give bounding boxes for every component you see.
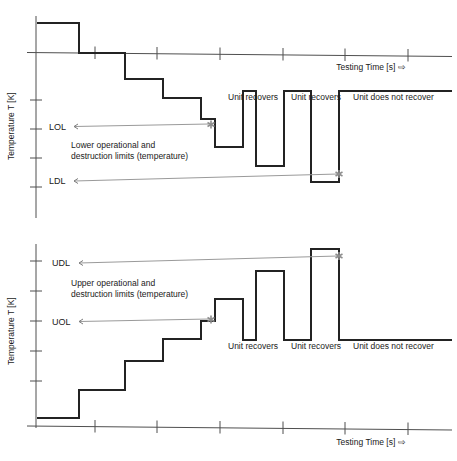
hot-note-line-2: destruction limits (temperature) — [71, 289, 188, 299]
hot-limit-label-udl: UDL — [52, 258, 70, 268]
hot-event-label-2: Unit recovers — [291, 341, 341, 351]
cold-step-stress-chart: Temperature T [K] Testing Time [s] ⇨ LOL… — [0, 0, 457, 230]
hot-event-label-1: Unit recovers — [228, 341, 278, 351]
cold-event-label-2: Unit recovers — [291, 92, 341, 102]
hot-profile-line — [37, 249, 452, 418]
cold-y-axis-title: Temperature T [K] — [6, 92, 16, 160]
hot-x-axis — [27, 426, 452, 430]
hot-limit-label-uol: UOL — [52, 317, 71, 327]
cold-lol-leader — [74, 124, 209, 129]
step-stress-figure: Temperature T [K] Testing Time [s] ⇨ LOL… — [0, 0, 457, 461]
cold-event-label-1: Unit recovers — [228, 92, 278, 102]
hot-uol-leader — [79, 319, 209, 324]
hot-step-stress-chart: Temperature T [K] Testing Time [s] ⇨ UDL… — [0, 230, 457, 461]
cold-x-axis-title: Testing Time [s] ⇨ — [336, 62, 405, 72]
hot-note-line-1: Upper operational and — [71, 278, 155, 288]
cold-limit-label-ldl: LDL — [49, 176, 66, 186]
hot-event-label-3: Unit does not recover — [353, 341, 434, 351]
hot-udl-leader — [79, 256, 338, 266]
cold-note-line-1: Lower operational and — [71, 140, 155, 150]
cold-ldl-leader — [74, 174, 338, 184]
hot-chart-svg: Temperature T [K] Testing Time [s] ⇨ UDL… — [0, 230, 457, 461]
cold-note-line-2: destruction limits (temperature) — [71, 151, 188, 161]
cold-event-label-3: Unit does not recover — [353, 92, 434, 102]
hot-y-axis-title: Temperature T [K] — [6, 297, 16, 365]
cold-limit-label-lol: LOL — [49, 122, 66, 132]
hot-x-axis-title: Testing Time [s] ⇨ — [336, 437, 405, 447]
cold-chart-svg: Temperature T [K] Testing Time [s] ⇨ LOL… — [0, 0, 457, 230]
